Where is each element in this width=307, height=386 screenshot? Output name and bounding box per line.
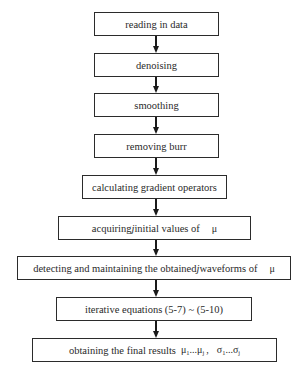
step-label-post: waveforms of bbox=[199, 263, 257, 274]
mu-range: μ1...μj, bbox=[181, 344, 209, 356]
ellipsis: ... bbox=[225, 344, 233, 355]
mu-symbol: μ bbox=[269, 263, 274, 274]
step-label-post: initial values of bbox=[134, 223, 199, 234]
step-label: removing burr bbox=[126, 141, 186, 152]
step-label: denoising bbox=[136, 60, 177, 71]
step-removing-burr: removing burr bbox=[94, 134, 219, 158]
arrowhead-icon bbox=[153, 209, 159, 216]
step-iterative-equations: iterative equations (5-7) ~ (5-10) bbox=[56, 297, 252, 321]
arrowhead-icon bbox=[153, 46, 159, 53]
step-label: calculating gradient operators bbox=[92, 182, 217, 193]
step-detecting-maintaining-waveforms: detecting and maintaining the obtained j… bbox=[17, 256, 291, 280]
arrowhead-icon bbox=[153, 127, 159, 134]
step-reading-in-data: reading in data bbox=[94, 12, 219, 36]
ellipsis: ... bbox=[190, 344, 198, 355]
step-denoising: denoising bbox=[94, 53, 219, 77]
step-final-results: obtaining the final results μ1...μj, σ1.… bbox=[32, 338, 277, 362]
arrowhead-icon bbox=[153, 86, 159, 93]
step-label-pre: detecting and maintaining the obtained bbox=[33, 263, 196, 274]
step-label: iterative equations (5-7) ~ (5-10) bbox=[85, 304, 223, 315]
step-calculating-gradient-operators: calculating gradient operators bbox=[82, 175, 227, 199]
subscript: j bbox=[202, 349, 204, 356]
arrowhead-icon bbox=[153, 290, 159, 297]
step-label: obtaining the final results bbox=[69, 345, 176, 356]
arrowhead-icon bbox=[153, 331, 159, 338]
step-label: smoothing bbox=[134, 100, 178, 111]
subscript: j bbox=[238, 349, 240, 356]
arrowhead-icon bbox=[153, 249, 159, 256]
arrowhead-icon bbox=[153, 168, 159, 175]
mu-symbol: μ bbox=[212, 223, 217, 234]
step-label: reading in data bbox=[125, 19, 187, 30]
sigma-range: σ1...σj bbox=[217, 344, 240, 356]
step-label-pre: acquiring bbox=[92, 223, 132, 234]
step-smoothing: smoothing bbox=[94, 93, 219, 117]
separator: , bbox=[206, 344, 209, 355]
step-acquiring-initial-values: acquiring j initial values ofμ bbox=[58, 216, 251, 240]
